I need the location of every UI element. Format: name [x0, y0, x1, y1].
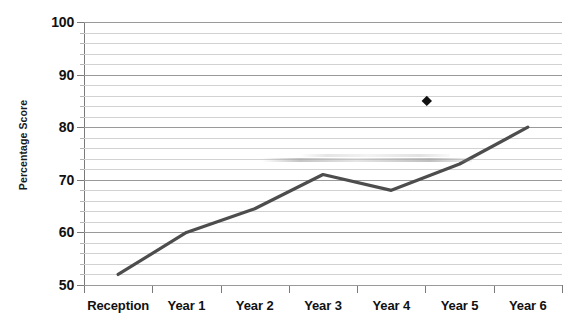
y-tick-label: 80: [30, 119, 74, 135]
y-minor-tick: [80, 211, 84, 212]
y-axis-tick-labels: 5060708090100: [18, 0, 74, 327]
y-major-tick: [77, 232, 84, 233]
y-minor-tick: [80, 222, 84, 223]
x-tick-label-year-2: Year 2: [236, 298, 274, 313]
x-tick-label-year-1: Year 1: [168, 298, 206, 313]
y-tick-label: 90: [30, 67, 74, 83]
series-line-0: [118, 127, 528, 274]
y-minor-tick: [80, 33, 84, 34]
y-minor-tick: [80, 64, 84, 65]
x-axis-tick: [221, 286, 222, 293]
x-axis-tick: [494, 286, 495, 293]
y-major-tick: [77, 180, 84, 181]
y-major-tick: [77, 127, 84, 128]
x-tick-label-year-3: Year 3: [304, 298, 342, 313]
y-minor-tick: [80, 117, 84, 118]
y-minor-tick: [80, 43, 84, 44]
y-minor-tick: [80, 190, 84, 191]
line-chart: Percentage Score 5060708090100 Reception…: [0, 0, 588, 327]
y-minor-tick: [80, 106, 84, 107]
x-axis-tick: [425, 286, 426, 293]
y-minor-tick: [80, 253, 84, 254]
y-major-tick: [77, 22, 84, 23]
diamond-marker-0: [422, 96, 432, 106]
x-axis-tick: [289, 286, 290, 293]
x-tick-label-reception: Reception: [87, 298, 149, 313]
y-minor-tick: [80, 138, 84, 139]
x-axis-tick: [357, 286, 358, 293]
x-tick-label-year-6: Year 6: [509, 298, 547, 313]
y-tick-label: 100: [30, 14, 74, 30]
y-tick-label: 50: [30, 277, 74, 293]
y-minor-tick: [80, 201, 84, 202]
y-minor-tick: [80, 243, 84, 244]
y-minor-tick: [80, 159, 84, 160]
series-layer: [84, 22, 562, 285]
x-axis-tick: [562, 286, 563, 293]
gridline-major: [84, 285, 562, 286]
x-tick-label-year-4: Year 4: [372, 298, 410, 313]
y-minor-tick: [80, 264, 84, 265]
y-tick-label: 60: [30, 224, 74, 240]
plot-area: [84, 22, 562, 285]
y-tick-label: 70: [30, 172, 74, 188]
y-minor-tick: [80, 85, 84, 86]
y-major-tick: [77, 75, 84, 76]
y-major-tick: [77, 285, 84, 286]
x-axis-tick: [152, 286, 153, 293]
x-axis-tick: [84, 286, 85, 293]
y-minor-tick: [80, 54, 84, 55]
y-minor-tick: [80, 96, 84, 97]
y-minor-tick: [80, 274, 84, 275]
y-minor-tick: [80, 148, 84, 149]
x-tick-label-year-5: Year 5: [441, 298, 479, 313]
y-minor-tick: [80, 169, 84, 170]
